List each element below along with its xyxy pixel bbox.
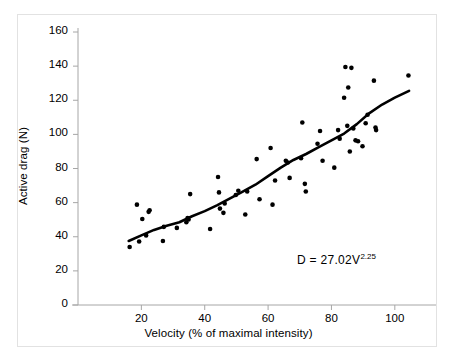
x-tick-label: 100 [378, 312, 412, 324]
equation-base: D = 27.02V [297, 253, 360, 267]
x-tick-label: 20 [124, 312, 158, 324]
equation-exponent: 2.25 [360, 252, 376, 261]
y-tick-label: 140 [34, 58, 68, 70]
regression-equation-annotation: D = 27.02V2.25 [297, 252, 376, 267]
y-tick-label: 120 [34, 92, 68, 104]
y-tick-label: 160 [34, 24, 68, 36]
y-tick-label: 80 [34, 161, 68, 173]
y-tick-label: 100 [34, 126, 68, 138]
x-axis-title: Velocity (% of maximal intensity) [0, 327, 457, 339]
x-tick-label: 60 [251, 312, 285, 324]
y-tick-label: 20 [34, 263, 68, 275]
y-axis-title: Active drag (N) [17, 86, 29, 246]
scatter-plot-canvas [0, 0, 457, 364]
x-tick-label: 80 [314, 312, 348, 324]
y-tick-label: 0 [34, 297, 68, 309]
x-tick-label: 40 [188, 312, 222, 324]
y-tick-label: 60 [34, 195, 68, 207]
y-tick-label: 40 [34, 229, 68, 241]
chart-figure: Active drag (N) Velocity (% of maximal i… [0, 0, 457, 364]
